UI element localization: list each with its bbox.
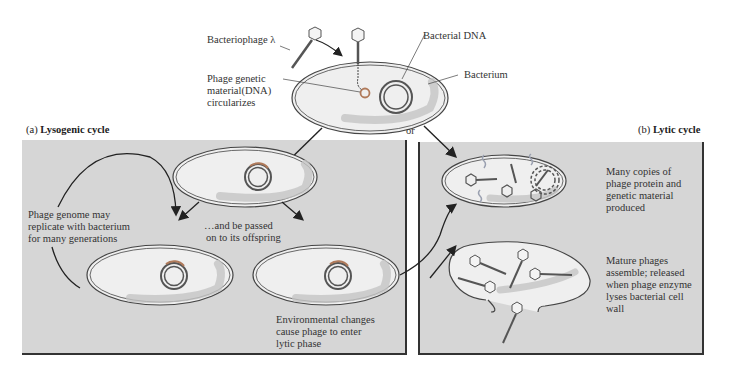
mature-label-1: Mature phages	[606, 255, 668, 268]
lysogenic-cell-parent	[173, 147, 317, 207]
lytic-title: (b) Lytic cycle	[638, 124, 700, 135]
lytic-cell-lysing	[449, 242, 590, 343]
bacterium-label: Bacterium	[464, 69, 508, 82]
mature-label-4: lyses bacterial cell	[606, 291, 684, 304]
lysogenic-title: (a) Lysogenic cycle	[26, 124, 109, 135]
top-bacterium	[292, 62, 448, 134]
lysogenic-offspring-right	[253, 245, 399, 305]
phage-dna-label-1: Phage genetic	[207, 73, 266, 86]
copies-label-1: Many copies of	[606, 166, 671, 179]
lytic-title-text: Lytic cycle	[653, 124, 701, 135]
phage-dna-label-2: material(DNA)	[207, 85, 271, 98]
passed-label-2: on to its offspring	[206, 232, 281, 245]
phage-dna-label-3: circularizes	[207, 97, 255, 110]
copies-label-3: genetic material	[606, 190, 673, 203]
replicate-label-2: replicate with bacterium	[28, 221, 130, 234]
mature-label-5: wall	[606, 303, 624, 316]
copies-label-2: phage protein and	[606, 178, 681, 191]
mature-label-3: when phage enzyme	[606, 279, 692, 292]
passed-label-1: …and be passed	[204, 220, 273, 233]
copies-label-4: produced	[606, 202, 645, 215]
lytic-cell-replicating	[442, 154, 566, 207]
environment-label-1: Environmental changes	[276, 314, 375, 327]
mature-label-2: assemble; released	[606, 267, 684, 280]
phage-free	[292, 27, 321, 68]
lytic-title-letter: (b)	[638, 124, 650, 135]
lysogenic-offspring-left	[87, 245, 233, 305]
bacterial-dna-label: Bacterial DNA	[423, 30, 486, 43]
replicate-label-1: Phage genome may	[28, 209, 110, 222]
phage-attached	[352, 28, 364, 64]
bacteriophage-label: Bacteriophage λ	[207, 34, 275, 47]
environment-label-2: cause phage to enter	[276, 326, 361, 339]
or-label: or	[406, 125, 415, 138]
environment-label-3: lytic phase	[276, 338, 321, 351]
lysogenic-title-text: Lysogenic cycle	[40, 124, 109, 135]
replicate-label-3: for many generations	[28, 233, 117, 246]
lysogenic-title-letter: (a)	[26, 124, 38, 135]
